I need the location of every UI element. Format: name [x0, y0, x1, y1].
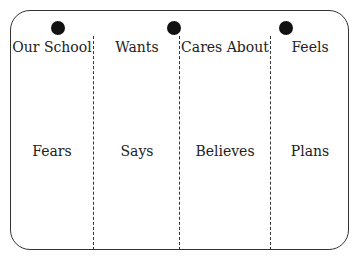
label-wants: Wants: [95, 39, 179, 55]
label-says: Says: [95, 143, 179, 159]
label-fears: Fears: [12, 143, 92, 159]
label-feels: Feels: [272, 39, 348, 55]
pin-dot-2: [167, 21, 181, 35]
divider-1: [93, 36, 94, 250]
label-cares-about: Cares About: [180, 39, 270, 55]
label-our-school: Our School: [12, 39, 92, 55]
label-plans: Plans: [272, 143, 348, 159]
pin-dot-1: [51, 21, 65, 35]
divider-3: [270, 36, 271, 250]
pin-dot-3: [279, 21, 293, 35]
label-believes: Believes: [180, 143, 270, 159]
